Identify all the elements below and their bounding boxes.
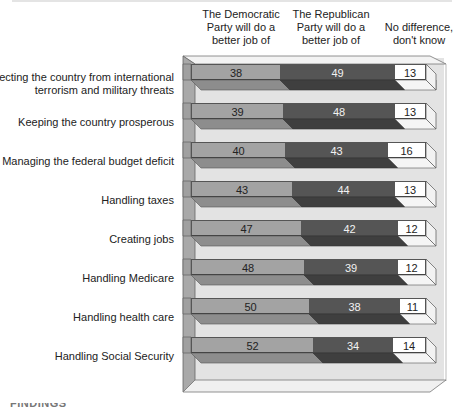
bar-segment-no-difference: 13 bbox=[395, 181, 426, 197]
header-line: better job of bbox=[196, 34, 286, 47]
footer-heading-text: FINDINGS bbox=[10, 403, 102, 408]
bar-segment-no-difference: 12 bbox=[398, 259, 426, 275]
category-label: Managing the federal budget deficit bbox=[2, 155, 174, 168]
bar-segment-democratic: 47 bbox=[191, 220, 301, 236]
bar-segment-democratic: 39 bbox=[191, 103, 283, 119]
bar-bottom-face bbox=[191, 197, 451, 208]
bar-segment-republican: 34 bbox=[313, 337, 393, 353]
bar-segment-no-difference: 14 bbox=[393, 337, 426, 353]
bar-segment-republican: 42 bbox=[301, 220, 398, 236]
bar-end-caps bbox=[424, 60, 444, 370]
header-line: better job of bbox=[288, 34, 374, 47]
bar-segment-republican: 39 bbox=[304, 259, 398, 275]
bar-bottom-face bbox=[191, 236, 451, 247]
label-line: terrorism and military threats bbox=[0, 84, 174, 97]
bar-segment-democratic: 43 bbox=[191, 181, 292, 197]
bar-segment-no-difference: 16 bbox=[388, 142, 426, 158]
category-label: Handling Social Security bbox=[55, 350, 174, 363]
bar-segment-no-difference: 11 bbox=[400, 298, 426, 314]
header-line: The Republican bbox=[288, 8, 374, 21]
bar-segment-no-difference: 13 bbox=[395, 64, 426, 80]
bar-segment-democratic: 50 bbox=[191, 298, 309, 314]
category-label: Handling taxes bbox=[101, 194, 174, 207]
bar-segment-democratic: 38 bbox=[191, 64, 280, 80]
bar-segment-republican: 49 bbox=[280, 64, 395, 80]
header-line: Party will do a bbox=[288, 21, 374, 34]
bar-segment-republican: 43 bbox=[285, 142, 388, 158]
category-label: Handling Medicare bbox=[82, 272, 174, 285]
bar-segment-republican: 38 bbox=[309, 298, 400, 314]
category-label: Protecting the country from internationa… bbox=[0, 71, 174, 97]
label-line: Protecting the country from internationa… bbox=[0, 71, 174, 84]
bar-segment-democratic: 40 bbox=[191, 142, 285, 158]
bar-segment-no-difference: 13 bbox=[395, 103, 426, 119]
header-line: don't know bbox=[378, 34, 460, 47]
bar-bottom-face bbox=[191, 158, 451, 169]
bar-segment-democratic: 52 bbox=[191, 337, 313, 353]
bar-segment-no-difference: 12 bbox=[398, 220, 426, 236]
bar-bottom-face bbox=[191, 275, 451, 286]
bar-bottom-face bbox=[191, 80, 451, 91]
footer-heading-partial: FINDINGS bbox=[10, 403, 102, 408]
header-line: No difference, bbox=[378, 21, 460, 34]
bar-segment-republican: 44 bbox=[292, 181, 395, 197]
header-line: The Democratic bbox=[196, 8, 286, 21]
bar-segment-republican: 48 bbox=[283, 103, 395, 119]
legend-header-democratic: The Democratic Party will do a better jo… bbox=[196, 8, 286, 47]
category-label: Keeping the country prosperous bbox=[18, 116, 174, 129]
bar-bottom-face bbox=[191, 353, 451, 364]
category-label: Creating jobs bbox=[109, 233, 174, 246]
category-label: Handling health care bbox=[73, 311, 174, 324]
bar-bottom-face bbox=[191, 119, 451, 130]
bar-segment-democratic: 48 bbox=[191, 259, 304, 275]
top-rule bbox=[12, 0, 452, 2]
header-line: Party will do a bbox=[196, 21, 286, 34]
legend-header-no-difference: No difference, don't know bbox=[378, 21, 460, 47]
legend-header-republican: The Republican Party will do a better jo… bbox=[288, 8, 374, 47]
bar-bottom-face bbox=[191, 314, 451, 325]
